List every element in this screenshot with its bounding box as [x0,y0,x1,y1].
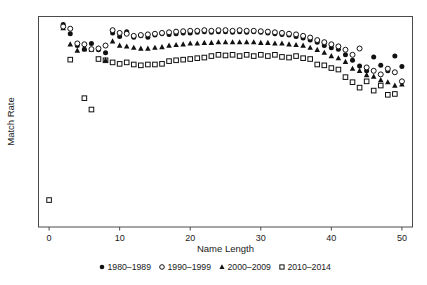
legend-label: 2000–2009 [227,262,271,272]
data-point [110,60,115,65]
data-point [322,63,327,68]
data-point [96,46,101,51]
data-point [343,47,348,52]
chart-canvas: 01020304050 Name Length Match Rate 1980–… [0,0,427,285]
data-point [174,29,179,34]
data-point [216,53,221,58]
data-point [174,58,179,63]
data-point [385,66,390,71]
data-point [68,26,73,31]
data-point [160,62,165,67]
data-point [181,57,186,62]
data-point [265,29,270,34]
legend-label: 1990–1999 [167,262,211,272]
data-point [181,29,186,34]
data-point [350,80,355,85]
data-point [329,42,334,47]
data-point [386,93,391,98]
y-axis-title: Match Rate [5,97,16,146]
x-tick-label-10: 10 [115,233,125,243]
data-point [258,53,263,58]
legend-item-2010-2014[interactable]: 2010–2014 [280,262,331,272]
data-point [378,63,383,68]
data-point [258,29,263,34]
data-point [343,75,348,80]
data-point [371,88,376,93]
data-point [392,70,397,75]
data-point [251,54,256,59]
data-point [279,30,284,35]
data-point [195,56,200,61]
data-point [294,32,299,37]
data-point [230,28,235,33]
data-point [378,83,383,88]
data-point [117,62,122,67]
data-point [103,43,108,48]
data-point [244,28,249,33]
data-point [96,57,101,62]
legend-marker-open-circle [160,265,165,270]
data-point [399,64,404,69]
data-point [273,53,278,58]
data-point [223,28,228,33]
data-point [371,68,376,73]
data-point [75,41,80,46]
data-point [301,33,306,38]
data-point [103,50,108,55]
data-point [68,57,73,62]
data-point [167,59,172,64]
data-point [188,28,193,33]
x-tick-label-30: 30 [256,233,266,243]
data-point [266,54,271,59]
data-point [280,55,285,60]
data-point [315,38,320,43]
data-point [230,53,235,58]
data-point [153,62,158,67]
data-point [124,60,129,65]
data-point [329,66,334,71]
legend-item-2000-2009[interactable]: 2000–2009 [219,262,271,272]
data-point [68,31,73,36]
data-point [315,62,320,67]
data-point [159,30,164,35]
data-point [357,63,362,68]
data-point [399,79,404,84]
data-point [131,33,136,38]
x-tick-label-40: 40 [326,233,336,243]
data-point [47,198,52,203]
data-point [195,28,200,33]
data-point [350,58,355,63]
data-point [138,33,143,38]
data-point [82,47,87,52]
legend-label: 1980–1989 [108,262,152,272]
data-point [216,28,221,33]
legend-item-1990-1999[interactable]: 1990–1999 [160,262,211,272]
data-point [188,57,193,62]
data-point [152,31,157,36]
data-point [223,53,228,58]
data-point [393,92,398,97]
data-point [61,24,66,29]
data-point [287,55,292,60]
data-point [378,72,383,77]
data-point [82,96,87,101]
data-point [287,31,292,36]
data-point [167,30,172,35]
data-point [301,56,306,61]
data-point [145,32,150,37]
data-point [209,54,214,59]
data-point [117,30,122,35]
data-point [131,62,136,67]
data-point [272,30,277,35]
data-point [357,85,362,90]
data-point [110,28,115,33]
legend-marker-open-square [280,265,284,269]
data-point [343,52,348,57]
data-point [350,52,355,57]
data-point [124,31,129,36]
legend-item-1980-1989[interactable]: 1980–1989 [100,262,151,272]
data-point [89,41,94,46]
data-point [89,107,94,112]
data-point [209,28,214,33]
data-point [336,67,341,72]
